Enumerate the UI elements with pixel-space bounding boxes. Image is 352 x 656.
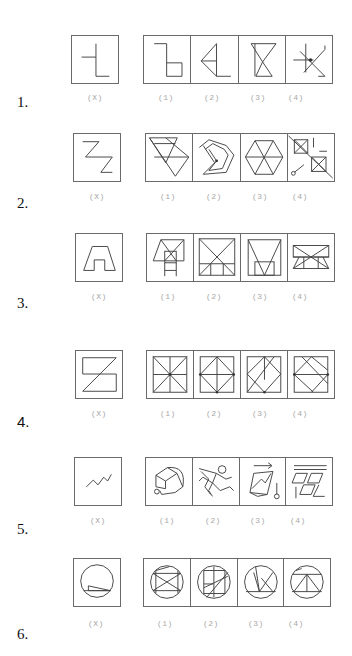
star-arrow-icon (286, 36, 332, 83)
question-number-5: 5. (17, 521, 28, 538)
trapezoid-ladder-icon (147, 234, 193, 281)
question-1-option-2[interactable] (191, 36, 238, 83)
question-6-option-label-4: (4) (288, 619, 304, 628)
circle-t-triangle-icon (284, 559, 330, 606)
question-1-option-label-3: (3) (250, 93, 266, 102)
double-z-figure-icon (74, 134, 120, 181)
question-4-option-1[interactable] (147, 351, 194, 398)
question-4-options (146, 350, 335, 399)
question-3-option-1[interactable] (147, 234, 194, 281)
question-1-option-3[interactable] (239, 36, 286, 83)
trapezoid-v-box-icon (241, 234, 287, 281)
circle-crossed-lines-icon (144, 559, 190, 606)
inverted-triangle-composite-icon (146, 134, 192, 181)
question-5-option-4[interactable] (286, 458, 332, 505)
question-5-x-label: (X) (90, 516, 106, 525)
question-2-option-4[interactable] (288, 134, 334, 181)
question-1-option-label-2: (2) (204, 93, 220, 102)
question-2-option-label-4: (4) (292, 192, 308, 201)
question-6-x-label: (X) (88, 619, 104, 628)
square-x-base-icon (194, 234, 240, 281)
question-5-option-label-3: (3) (250, 516, 266, 525)
running-figure-icon (193, 458, 239, 505)
zigzag-polygon-icon (193, 134, 239, 181)
polyhedron-circle-icon (146, 458, 192, 505)
circle-triangle-icon (74, 559, 120, 606)
question-2-option-3[interactable] (241, 134, 288, 181)
question-6-option-label-3: (3) (248, 619, 264, 628)
question-number-4: 4. (17, 413, 30, 430)
square-crossed-diamond-icon (288, 351, 334, 398)
question-4-option-label-3: (3) (252, 409, 268, 418)
question-5-option-2[interactable] (193, 458, 240, 505)
s-shape-diagonal-icon (76, 351, 122, 398)
question-4-option-2[interactable] (194, 351, 241, 398)
question-4-x-label: (X) (91, 409, 107, 418)
circle-triangles-icon (238, 559, 284, 606)
question-number-3: 3. (17, 295, 28, 312)
question-1-x-figure (71, 35, 119, 84)
question-3-x-label: (X) (91, 292, 107, 301)
question-4-option-label-1: (1) (160, 409, 176, 418)
hourglass-icon (239, 36, 285, 83)
question-6-option-label-2: (2) (203, 619, 219, 628)
question-2-options (145, 133, 335, 182)
question-5-option-label-4: (4) (290, 516, 306, 525)
question-3-option-4[interactable] (288, 234, 334, 281)
question-5-option-3[interactable] (240, 458, 287, 505)
question-3-option-label-4: (4) (292, 292, 308, 301)
square-diamond-icon (194, 351, 240, 398)
hexagon-diagonals-icon (241, 134, 287, 181)
question-6-option-4[interactable] (284, 559, 330, 606)
question-6-x-figure (73, 558, 121, 607)
zigzag-line-icon (75, 458, 121, 505)
question-3-options (146, 233, 335, 282)
question-6-options (143, 558, 331, 607)
question-6-option-3[interactable] (238, 559, 285, 606)
question-1-option-1[interactable] (144, 36, 191, 83)
question-2-x-label: (X) (89, 192, 105, 201)
question-1-options (143, 35, 333, 84)
rectangle-bowtie-icon (288, 234, 334, 281)
question-1-option-label-1: (1) (158, 93, 174, 102)
parallelogram-arrow-pendulum-icon (240, 458, 286, 505)
question-4-x-figure (75, 350, 123, 399)
question-4-option-3[interactable] (241, 351, 288, 398)
triangle-l-shape-icon (191, 36, 237, 83)
step-shape-icon (144, 36, 190, 83)
question-6-option-2[interactable] (191, 559, 238, 606)
question-number-2: 2. (17, 195, 28, 212)
question-number-1: 1. (17, 94, 28, 111)
question-3-option-label-1: (1) (160, 292, 176, 301)
question-6-option-1[interactable] (144, 559, 191, 606)
question-6-option-label-1: (1) (157, 619, 173, 628)
question-5-option-1[interactable] (146, 458, 193, 505)
square-diagonal-grid-icon (241, 351, 287, 398)
question-5-options (145, 457, 333, 506)
question-1-option-label-4: (4) (288, 93, 304, 102)
question-2-option-label-2: (2) (206, 192, 222, 201)
question-2-option-1[interactable] (146, 134, 193, 181)
question-5-option-label-2: (2) (205, 516, 221, 525)
question-2-x-figure (73, 133, 121, 182)
question-1-x-label: (X) (87, 93, 103, 102)
question-1-option-4[interactable] (286, 36, 332, 83)
question-2-option-2[interactable] (193, 134, 240, 181)
question-3-option-2[interactable] (194, 234, 241, 281)
question-4-option-4[interactable] (288, 351, 334, 398)
question-2-option-label-3: (3) (252, 192, 268, 201)
trapezoid-arch-icon (76, 234, 122, 281)
question-3-option-3[interactable] (241, 234, 288, 281)
question-3-option-label-3: (3) (252, 292, 268, 301)
question-3-x-figure (75, 233, 123, 282)
question-number-6: 6. (17, 626, 28, 643)
l-shape-figure-icon (72, 36, 118, 83)
circle-square-grid-icon (191, 559, 237, 606)
question-3-option-label-2: (2) (206, 292, 222, 301)
question-4-option-label-4: (4) (292, 409, 308, 418)
squares-arrows-icon (288, 134, 334, 181)
question-4-option-label-2: (2) (206, 409, 222, 418)
question-5-option-label-1: (1) (159, 516, 175, 525)
question-2-option-label-1: (1) (160, 192, 176, 201)
question-5-x-figure (74, 457, 122, 506)
